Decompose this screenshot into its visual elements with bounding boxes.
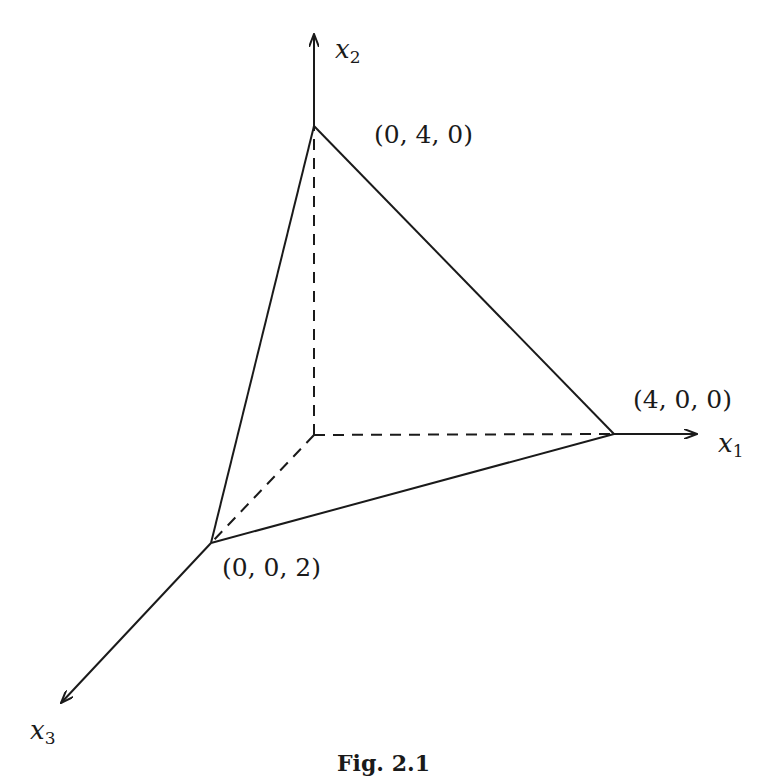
edge-x1-x3 xyxy=(211,434,614,543)
edge-x3-x2 xyxy=(211,126,314,543)
dashed-origin-to-x3 xyxy=(211,435,314,543)
dashed-origin-to-x1 xyxy=(314,434,614,435)
x2-axis-label: x2 xyxy=(335,36,361,66)
vertex-label-0-4-0: (0, 4, 0) xyxy=(374,122,473,147)
x3-axis-arrow xyxy=(61,543,211,703)
edge-x2-x1 xyxy=(314,126,614,434)
figure-caption: Fig. 2.1 xyxy=(337,752,430,774)
vertex-label-0-0-2: (0, 0, 2) xyxy=(222,555,321,580)
x1-axis-label: x1 xyxy=(718,430,744,460)
vertex-label-4-0-0: (4, 0, 0) xyxy=(633,387,732,412)
x3-axis-label: x3 xyxy=(30,717,56,747)
